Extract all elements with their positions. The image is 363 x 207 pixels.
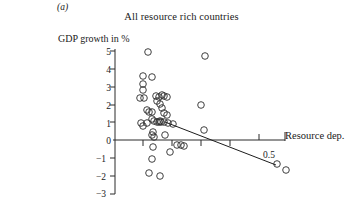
data-point (146, 170, 153, 177)
data-point (149, 156, 156, 163)
data-point (141, 95, 148, 102)
scatter-plot-canvas (0, 0, 363, 207)
data-point (150, 144, 157, 151)
data-point (167, 149, 174, 156)
figure-panel: (a) All resource rich countries GDP grow… (0, 0, 363, 207)
data-point (149, 116, 156, 123)
data-point (145, 49, 152, 56)
data-point (198, 102, 205, 109)
data-point (157, 173, 164, 180)
data-point (162, 132, 169, 139)
data-point (201, 127, 208, 134)
data-point (140, 73, 147, 80)
data-points-group (137, 49, 290, 180)
data-point (149, 74, 156, 81)
axes-group (110, 49, 285, 194)
data-point (283, 167, 290, 174)
data-point (202, 53, 209, 60)
